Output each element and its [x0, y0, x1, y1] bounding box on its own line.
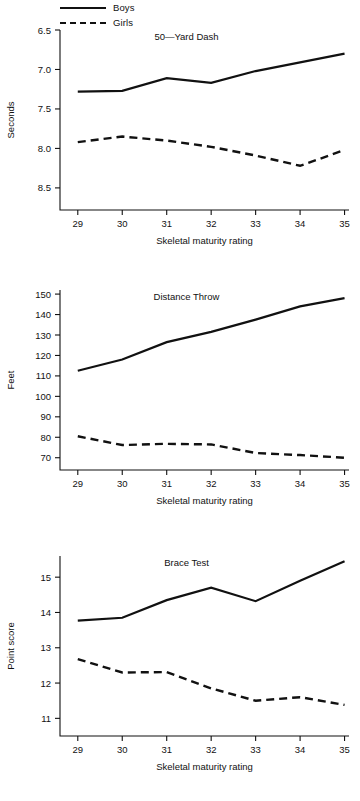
chart-panel-dash: 6.57.07.58.08.52930313233343550—Yard Das…	[0, 22, 360, 252]
series-line-boys	[78, 561, 345, 620]
y-axis-label: Seconds	[5, 101, 16, 138]
x-tick-label: 34	[295, 478, 306, 489]
y-tick-label: 130	[35, 330, 51, 341]
x-tick-label: 31	[161, 218, 172, 229]
x-axis-label: Skeletal maturity rating	[156, 761, 253, 772]
x-tick-label: 34	[295, 218, 306, 229]
y-tick-label: 140	[35, 309, 51, 320]
x-tick-label: 32	[206, 744, 217, 755]
chart-2-canvas: 111213141529303132333435Brace TestSkelet…	[0, 548, 360, 778]
chart-1-canvas: 70809010011012013014015029303132333435Di…	[0, 282, 360, 512]
x-tick-label: 35	[339, 744, 350, 755]
y-tick-label: 15	[40, 572, 51, 583]
y-tick-label: 120	[35, 350, 51, 361]
y-tick-label: 110	[36, 370, 51, 381]
series-line-girls	[78, 659, 345, 705]
x-tick-label: 32	[206, 478, 217, 489]
y-tick-label: 8.5	[38, 182, 51, 193]
series-line-girls	[78, 137, 345, 166]
series-line-boys	[78, 54, 345, 92]
chart-panel-throw: 70809010011012013014015029303132333435Di…	[0, 282, 360, 512]
chart-0-canvas: 6.57.07.58.08.52930313233343550—Yard Das…	[0, 22, 360, 252]
y-tick-label: 11	[41, 713, 51, 724]
x-tick-label: 31	[161, 744, 172, 755]
x-tick-label: 29	[72, 218, 83, 229]
y-tick-label: 8.0	[38, 143, 51, 154]
x-tick-label: 30	[117, 218, 128, 229]
chart-title: Distance Throw	[154, 291, 220, 302]
x-tick-label: 30	[117, 744, 128, 755]
x-tick-label: 33	[250, 218, 261, 229]
x-tick-label: 29	[72, 744, 83, 755]
figure-page: Boys Girls 6.57.07.58.08.529303132333435…	[0, 0, 360, 801]
x-tick-label: 35	[339, 478, 350, 489]
axis-spines	[60, 290, 349, 470]
y-tick-label: 7.5	[38, 103, 51, 114]
x-tick-label: 34	[295, 744, 306, 755]
x-axis-label: Skeletal maturity rating	[156, 235, 253, 246]
axis-spines	[60, 30, 349, 210]
y-tick-label: 70	[40, 452, 51, 463]
legend-label-boys: Boys	[113, 3, 135, 13]
y-tick-label: 12	[40, 678, 51, 689]
x-tick-label: 32	[206, 218, 217, 229]
series-line-boys	[78, 298, 345, 371]
y-tick-label: 14	[40, 607, 51, 618]
y-tick-label: 100	[35, 391, 51, 402]
y-tick-label: 13	[40, 642, 51, 653]
x-tick-label: 33	[250, 744, 261, 755]
axis-spines	[60, 556, 349, 736]
x-tick-label: 35	[339, 218, 350, 229]
legend-item-boys: Boys	[60, 0, 210, 15]
chart-panel-brace: 111213141529303132333435Brace TestSkelet…	[0, 548, 360, 778]
series-line-girls	[78, 436, 345, 457]
y-tick-label: 6.5	[38, 25, 51, 36]
y-axis-label: Point score	[5, 622, 16, 670]
y-tick-label: 80	[40, 432, 51, 443]
x-tick-label: 33	[250, 478, 261, 489]
chart-title: 50—Yard Dash	[154, 31, 218, 42]
x-tick-label: 31	[161, 478, 172, 489]
y-tick-label: 90	[40, 411, 51, 422]
x-tick-label: 29	[72, 478, 83, 489]
x-tick-label: 30	[117, 478, 128, 489]
y-tick-label: 7.0	[38, 64, 51, 75]
y-axis-label: Feet	[5, 370, 16, 389]
chart-title: Brace Test	[164, 557, 209, 568]
legend-swatch-solid-icon	[60, 7, 106, 9]
x-axis-label: Skeletal maturity rating	[156, 495, 253, 506]
y-tick-label: 150	[35, 289, 51, 300]
